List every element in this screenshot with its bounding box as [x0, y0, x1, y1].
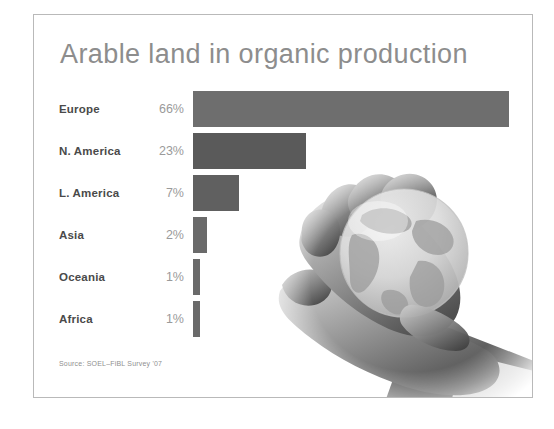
chart-row: Asia2% — [34, 217, 533, 253]
chart-row: Africa1% — [34, 301, 533, 337]
chart-row: Oceania1% — [34, 259, 533, 295]
source-note: Source: SOEL–FiBL Survey '07 — [59, 360, 162, 367]
chart-row: Europe66% — [34, 91, 533, 127]
bar-rect — [193, 175, 239, 211]
chart-row: N. America23% — [34, 133, 533, 169]
chart-row: L. America7% — [34, 175, 533, 211]
bar-rect — [193, 301, 200, 337]
bar-value-label: 1% — [138, 301, 184, 337]
page-title: Arable land in organic production — [60, 39, 468, 70]
slide-frame: Arable land in organic production — [33, 14, 533, 398]
bar-rect — [193, 217, 207, 253]
bar-value-label: 66% — [138, 91, 184, 127]
bar-value-label: 1% — [138, 259, 184, 295]
bar-rect — [193, 91, 509, 127]
bar-rect — [193, 133, 306, 169]
bar-value-label: 7% — [138, 175, 184, 211]
bar-value-label: 2% — [138, 217, 184, 253]
bar-chart: Europe66%N. America23%L. America7%Asia2%… — [34, 91, 533, 351]
bar-value-label: 23% — [138, 133, 184, 169]
bar-rect — [193, 259, 200, 295]
